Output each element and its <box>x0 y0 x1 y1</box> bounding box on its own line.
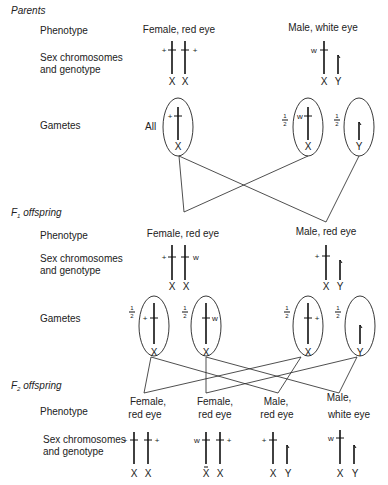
row-label-phenotype: Phenotype <box>40 230 88 241</box>
f2-offspring-female-heterozygous: Female, red eye w + X X <box>193 396 233 479</box>
svg-text:1: 1 <box>285 305 289 311</box>
phenotype-label: red eye <box>128 409 162 420</box>
chromosome-label: Y <box>285 468 292 479</box>
allele-label: + <box>155 436 160 445</box>
f1-cross-lines <box>144 357 357 393</box>
chromosome-label: Y <box>352 468 359 479</box>
chromosome-label: X <box>337 468 344 479</box>
row-label-genotype: and genotype <box>43 446 104 457</box>
allele-label: w <box>211 314 218 323</box>
section-parents-label: Parents <box>11 5 45 16</box>
allele-label: + <box>143 314 148 323</box>
phenotype-label: Female, <box>130 396 166 407</box>
chromosome-label: Y <box>337 281 344 292</box>
f1-female-phenotype: Female, red eye <box>147 228 220 239</box>
allele-label: + <box>315 252 320 261</box>
row-label-gametes: Gametes <box>40 313 81 324</box>
chromosome-label: X <box>305 347 312 358</box>
allele-label: + <box>227 436 232 445</box>
phenotype-label: Female, <box>197 396 233 407</box>
f2-offspring-male-red: Male, red eye + X Y <box>260 396 294 479</box>
f2-offspring-male-white: Male, white eye w X Y <box>327 392 371 479</box>
parent-gamete-female: All + X <box>145 98 193 156</box>
row-label-gametes: Gametes <box>40 120 81 131</box>
chromosome-label: X <box>131 468 138 479</box>
chromosome-label: Y <box>356 141 363 152</box>
svg-text:1: 1 <box>336 305 340 311</box>
svg-text:2: 2 <box>336 313 340 319</box>
chromosome-label: X <box>169 76 176 87</box>
chromosome-label: X <box>203 468 210 479</box>
allele-label: + <box>162 253 167 262</box>
section-f2-label: F2 offspring <box>11 380 62 392</box>
chromosome-label: X <box>305 141 312 152</box>
f2-offspring-female-homozygous: Female, red eye + + X X <box>123 396 166 479</box>
svg-text:2: 2 <box>283 121 287 127</box>
phenotype-label: white eye <box>327 409 371 420</box>
svg-text:2: 2 <box>335 121 339 127</box>
phenotype-label: Male, <box>264 396 288 407</box>
chromosome-label: X <box>321 76 328 87</box>
parent-male-phenotype: Male, white eye <box>288 22 358 33</box>
row-label-sex-chromosomes: Sex chromosomes <box>40 52 123 63</box>
f1-gamete-4: 1 2 Y <box>335 296 375 358</box>
chromosome-label: X <box>183 281 190 292</box>
allele-label: + <box>162 46 167 55</box>
parent-male-chromosomes: w X Y <box>310 41 342 87</box>
allele-label: w <box>193 436 200 445</box>
svg-text:2: 2 <box>285 313 289 319</box>
gamete-fraction-label: All <box>145 121 156 132</box>
phenotype-label: Male, <box>327 392 351 403</box>
allele-label: + <box>193 46 198 55</box>
f1-male-phenotype: Male, red eye <box>296 226 357 237</box>
chromosome-label: X <box>203 347 210 358</box>
phenotype-label: red eye <box>260 409 294 420</box>
svg-text:2: 2 <box>130 313 134 319</box>
chromosome-label: X <box>169 281 176 292</box>
svg-text:1: 1 <box>335 113 339 119</box>
allele-label: w <box>327 434 334 443</box>
svg-text:1: 1 <box>183 305 187 311</box>
x-linked-inheritance-diagram: Parents Phenotype Sex chromosomes and ge… <box>0 0 388 485</box>
parent-female-chromosomes: + + X X <box>162 41 198 87</box>
allele-label: w <box>310 46 317 55</box>
row-label-genotype: and genotype <box>40 64 101 75</box>
f1-male-chromosomes: + X Y <box>315 245 344 292</box>
row-label-phenotype: Phenotype <box>40 25 88 36</box>
parent-gamete-male-x: 1 2 w X <box>282 98 323 156</box>
parent-female-phenotype: Female, red eye <box>143 24 216 35</box>
allele-label: + <box>168 112 173 121</box>
row-label-sex-chromosomes: Sex chromosomes <box>40 253 123 264</box>
chromosome-label: X <box>175 141 182 152</box>
allele-label: + <box>315 314 320 323</box>
chromosome-label: X <box>323 281 330 292</box>
parent-gamete-male-y: 1 2 Y <box>334 98 374 156</box>
parent-cross-lines <box>179 156 359 222</box>
allele-label: w <box>192 253 199 262</box>
row-label-phenotype: Phenotype <box>40 406 88 417</box>
f1-gamete-3: 1 2 + X <box>284 296 323 358</box>
f1-female-chromosomes: + w X X <box>162 245 199 292</box>
row-label-sex-chromosomes: Sex chromosomes <box>43 434 126 445</box>
allele-label: + <box>123 436 128 445</box>
chromosome-label: X <box>270 468 277 479</box>
allele-label: w <box>296 112 303 121</box>
chromosome-label: X <box>217 468 224 479</box>
chromosome-label: X <box>151 347 158 358</box>
chromosome-label: X <box>145 468 152 479</box>
chromosome-label: Y <box>335 76 342 87</box>
row-label-genotype: and genotype <box>40 265 101 276</box>
section-f1-label: F1 offspring <box>11 207 62 219</box>
chromosome-label: Y <box>357 347 364 358</box>
allele-label: + <box>262 436 267 445</box>
f1-gamete-2: 1 2 w X <box>182 296 221 358</box>
svg-text:2: 2 <box>183 313 187 319</box>
svg-text:1: 1 <box>283 113 287 119</box>
chromosome-label: X <box>182 76 189 87</box>
svg-text:1: 1 <box>130 305 134 311</box>
f1-gamete-1: 1 2 + X <box>129 296 169 358</box>
phenotype-label: red eye <box>198 409 232 420</box>
